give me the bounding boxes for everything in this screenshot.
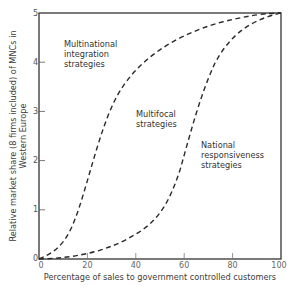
y-tick-label: 5 (33, 9, 38, 18)
svg-text:integration: integration (64, 49, 109, 59)
x-tick-label: 40 (131, 261, 141, 270)
svg-text:strategies: strategies (136, 119, 177, 129)
region-label-multinational: Multinational integration strategies (64, 39, 117, 69)
y-tick-label: 2 (33, 156, 38, 165)
y-tick-label: 3 (33, 107, 38, 116)
x-tick-label: 0 (38, 261, 43, 270)
x-tick-label: 20 (82, 261, 92, 270)
chart: 0 1 2 3 4 5 0 20 40 60 80 100 Percentage… (0, 0, 297, 292)
y-axis-title-line2: Western Europe (18, 104, 28, 169)
svg-text:strategies: strategies (64, 59, 105, 69)
y-axis-title-line1: Relative market share (8 firms included)… (8, 30, 18, 241)
x-axis-title: Percentage of sales to government contro… (44, 272, 276, 282)
y-axis (39, 62, 45, 210)
svg-text:Multifocal: Multifocal (136, 109, 176, 119)
x-tick-label: 100 (271, 261, 286, 270)
x-axis (87, 253, 232, 259)
svg-text:strategies: strategies (201, 160, 242, 170)
y-axis-title: Relative market share (8 firms included)… (8, 30, 28, 241)
svg-text:Multinational: Multinational (64, 39, 117, 49)
svg-text:responsiveness: responsiveness (201, 150, 264, 160)
region-label-national: National responsiveness strategies (201, 140, 264, 170)
y-tick-label: 0 (33, 254, 38, 263)
svg-text:National: National (201, 140, 235, 150)
x-tick-label: 80 (228, 261, 238, 270)
region-label-multifocal: Multifocal strategies (136, 109, 177, 129)
y-tick-label: 1 (33, 205, 38, 214)
x-tick-label: 60 (179, 261, 189, 270)
y-tick-label: 4 (33, 58, 38, 67)
